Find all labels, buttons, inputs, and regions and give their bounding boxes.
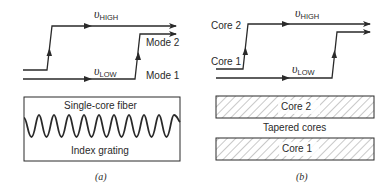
core2-path-label: Core 2 xyxy=(211,21,241,31)
diagram-canvas xyxy=(0,0,388,187)
index-grating-wave xyxy=(24,115,180,137)
v-low-label-a: υLOW xyxy=(94,65,117,79)
arrow-icon xyxy=(84,76,92,82)
arrow-icon xyxy=(84,23,92,29)
arrow-icon xyxy=(282,21,290,27)
arrow-icon xyxy=(243,47,249,55)
mode2-label: Mode 2 xyxy=(146,38,179,48)
arrow-icon xyxy=(332,50,338,58)
mode1-label: Mode 1 xyxy=(146,71,179,81)
v-high-label-a: υHIGH xyxy=(94,8,118,22)
core2-box-label: Core 2 xyxy=(281,102,311,112)
core1-path-label: Core 1 xyxy=(211,57,241,67)
caption-a: (a) xyxy=(95,172,107,182)
tapered-cores-label: Tapered cores xyxy=(263,123,326,133)
arrow-icon xyxy=(47,48,53,56)
single-core-fiber-label: Single-core fiber xyxy=(64,101,137,111)
index-grating-label: Index grating xyxy=(71,146,129,156)
arrow-icon xyxy=(282,75,290,81)
caption-b: (b) xyxy=(296,172,308,182)
v-low-label-b: υLOW xyxy=(292,63,315,77)
core1-box-label: Core 1 xyxy=(282,144,312,154)
v-high-label-b: υHIGH xyxy=(295,7,319,21)
arrow-icon xyxy=(135,52,141,60)
